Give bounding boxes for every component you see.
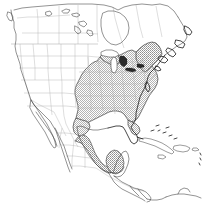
caribbean-islands [137,125,201,198]
range-map-container [0,0,203,205]
north-america-range-map [0,0,203,205]
